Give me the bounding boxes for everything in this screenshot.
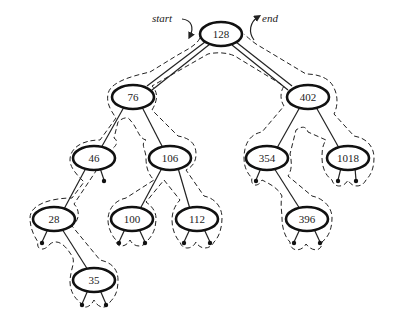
nil-leaf-dot (143, 241, 147, 245)
node-100: 100 (111, 207, 153, 231)
node-1018: 1018 (327, 146, 369, 170)
node-label: 1018 (337, 152, 360, 164)
nil-leaf-dot (117, 241, 121, 245)
nil-leaf-dot (292, 241, 296, 245)
node-label: 46 (89, 152, 101, 164)
node-396: 396 (286, 207, 328, 231)
node-label: 100 (124, 213, 141, 225)
nil-leaf-dot (208, 241, 212, 245)
nil-leaf-dot (336, 179, 340, 183)
node-106: 106 (149, 146, 191, 170)
node-label: 354 (259, 152, 276, 164)
node-label: 106 (162, 152, 179, 164)
nil-leaf-dot (354, 179, 358, 183)
node-label: 35 (89, 274, 101, 286)
node-label: 28 (49, 213, 61, 225)
node-46: 46 (73, 146, 115, 170)
euler-tour-contour (30, 34, 374, 307)
node-76: 76 (112, 85, 154, 109)
node-112: 112 (176, 207, 218, 231)
node-128: 128 (200, 22, 242, 46)
node-354: 354 (246, 146, 288, 170)
node-label: 396 (299, 213, 316, 225)
node-402: 402 (287, 85, 329, 109)
start-annotation: start (152, 12, 192, 36)
node-label: 112 (189, 213, 205, 225)
nil-leaf-dot (80, 303, 84, 307)
node-label: 128 (213, 28, 230, 40)
tree-diagram: start end 128 (0, 0, 397, 332)
start-label: start (152, 12, 173, 24)
nil-leaf-dot (182, 241, 186, 245)
nil-leaf-dot (318, 241, 322, 245)
node-28: 28 (33, 207, 75, 231)
node-label: 76 (128, 91, 140, 103)
end-annotation: end (251, 12, 279, 40)
node-label: 402 (300, 91, 317, 103)
end-label: end (262, 12, 278, 24)
node-35: 35 (73, 268, 115, 292)
nil-leaf-dot (102, 179, 106, 183)
nil-leaf-dot (40, 241, 44, 245)
nil-leaf-dot (104, 303, 108, 307)
nil-leaf-dot (254, 179, 258, 183)
